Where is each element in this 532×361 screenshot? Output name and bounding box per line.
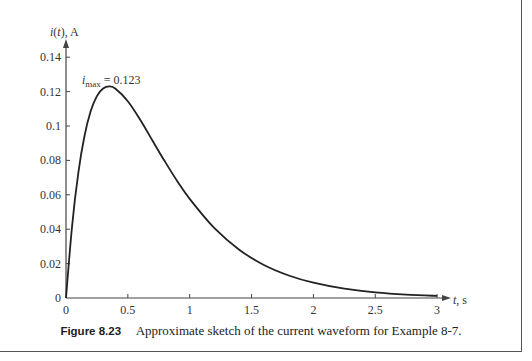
- figure-caption: Figure 8.23 Approximate sketch of the cu…: [0, 323, 522, 339]
- x-tick-label: 0: [63, 303, 69, 317]
- current-curve: [66, 86, 437, 298]
- y-tick-label: 0.08: [40, 153, 61, 167]
- x-tick-label: 1: [187, 303, 193, 317]
- x-axis-arrow-icon: [442, 295, 451, 301]
- y-tick-label: 0.1: [46, 119, 61, 133]
- y-tick-label: 0: [55, 291, 61, 305]
- y-tick-label: 0.12: [40, 85, 61, 99]
- x-tick-label: 0.5: [120, 303, 135, 317]
- y-tick-label: 0.06: [40, 188, 61, 202]
- x-tick-label: 1.5: [244, 303, 259, 317]
- y-tick-label: 0.02: [40, 257, 61, 271]
- y-tick-label: 0.04: [40, 222, 61, 236]
- y-axis-label: i(t), A: [50, 25, 79, 39]
- max-annotation: imax = 0.123: [82, 73, 141, 89]
- current-waveform-chart: 00.020.040.060.080.10.120.1400.511.522.5…: [0, 0, 532, 361]
- x-axis-label: t, s: [453, 293, 467, 307]
- figure-number: Figure 8.23: [60, 325, 121, 337]
- x-tick-label: 2.5: [368, 303, 383, 317]
- y-tick-label: 0.14: [40, 50, 61, 64]
- x-tick-label: 2: [310, 303, 316, 317]
- x-tick-label: 3: [434, 303, 440, 317]
- y-axis-arrow-icon: [63, 39, 69, 48]
- caption-text: Approximate sketch of the current wavefo…: [136, 323, 462, 338]
